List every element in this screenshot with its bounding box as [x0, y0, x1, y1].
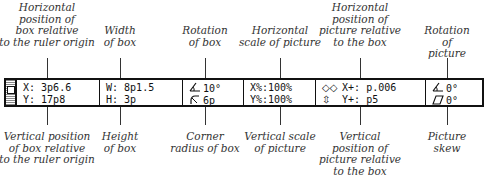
leader-line [280, 107, 281, 125]
leader-line [120, 58, 121, 78]
picture-skew-field[interactable]: 0° [446, 95, 458, 107]
label-width-of-box: Width of box [104, 25, 137, 48]
rotation-icon [432, 82, 446, 95]
label-horizontal-scale-of-picture: Horizontal scale of picture [239, 25, 321, 48]
leader-line [47, 58, 48, 78]
measurements-palette: X: 3p6.6 Y: 17p8 W: 8p1.5 H: 3p 10° 6p X… [4, 78, 484, 107]
label-vertical-position-of-box: Vertical position of box relative to the… [0, 131, 95, 166]
box-position-field-group: X: 3p6.6 Y: 17p8 [17, 80, 100, 105]
label-rotation-of-picture: Rotation of picture [424, 25, 469, 60]
leader-line [447, 107, 448, 125]
horizontal-arrows-icon[interactable]: ◇◇ [322, 82, 336, 94]
box-width-field[interactable]: 8p1.5 [124, 82, 154, 94]
picture-offset-field-group: ◇◇ X+: p.006 ⇳ Y+: p5 [316, 80, 426, 105]
box-y-field[interactable]: 17p8 [41, 94, 65, 106]
skew-icon [432, 95, 446, 108]
corner-radius-field[interactable]: 6p [203, 95, 215, 107]
picture-rotation-field[interactable]: 0° [446, 83, 458, 95]
x-label: X: [23, 82, 35, 94]
rotation-icon [189, 82, 203, 95]
picture-y-offset-field[interactable]: p5 [366, 94, 378, 106]
leader-line [47, 107, 48, 125]
label-height-of-box: Height of box [102, 131, 138, 154]
label-picture-skew: Picture skew [428, 131, 467, 154]
label-horizontal-position-of-box: Horizontal position of box relative to t… [0, 2, 95, 48]
picture-y-scale-field[interactable]: 100% [268, 94, 292, 106]
leader-line [205, 58, 206, 78]
picture-scale-field-group: X%:100% Y%:100% [244, 80, 316, 105]
leader-line [447, 58, 448, 78]
box-height-field[interactable]: 3p [124, 94, 136, 106]
picture-x-offset-field[interactable]: p.006 [366, 82, 396, 94]
leader-line [280, 58, 281, 78]
label-vertical-scale-of-picture: Vertical scale of picture [244, 131, 315, 154]
palette-drag-bar[interactable] [6, 80, 17, 105]
x-scale-label: X%: [250, 82, 268, 94]
corner-radius-icon [189, 95, 203, 108]
box-rotation-field-group: 10° 6p [183, 80, 244, 105]
leader-line [205, 107, 206, 125]
label-corner-radius-of-box: Corner radius of box [170, 131, 239, 154]
h-label: H: [106, 94, 118, 106]
picture-x-scale-field[interactable]: 100% [268, 82, 292, 94]
leader-line [120, 107, 121, 125]
leader-line [360, 58, 361, 78]
y-offset-label: Y+: [342, 94, 360, 106]
box-rotation-field[interactable]: 10° [203, 83, 221, 95]
label-horizontal-position-of-picture: Horizontal position of picture relative … [319, 2, 401, 48]
x-offset-label: X+: [342, 82, 360, 94]
close-box-icon[interactable] [7, 86, 15, 94]
box-size-field-group: W: 8p1.5 H: 3p [100, 80, 183, 105]
label-vertical-position-of-picture: Vertical position of picture relative to… [319, 131, 401, 177]
picture-transform-field-group: 0° 0° [426, 80, 482, 105]
label-rotation-of-box: Rotation of box [182, 25, 227, 48]
vertical-arrows-icon[interactable]: ⇳ [322, 94, 336, 106]
w-label: W: [106, 82, 118, 94]
y-label: Y: [23, 94, 35, 106]
leader-line [360, 107, 361, 125]
y-scale-label: Y%: [250, 94, 268, 106]
box-x-field[interactable]: 3p6.6 [41, 82, 71, 94]
